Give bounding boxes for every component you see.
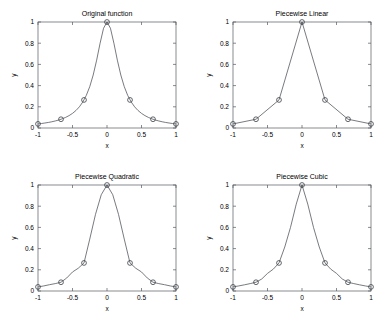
plot-title: Piecewise Linear <box>276 10 330 17</box>
x-axis-label: x <box>300 142 304 149</box>
x-tick-label: 0.5 <box>137 294 146 301</box>
y-axis-label: y <box>10 73 18 77</box>
subplot-piecewise-quadratic: Piecewise Quadratic-1-0.500.5100.20.40.6… <box>0 163 195 326</box>
y-axis-label: y <box>205 73 213 77</box>
x-tick-label: -0.5 <box>262 294 274 301</box>
y-tick-label: 0.4 <box>25 82 34 89</box>
figure-canvas: Original function-1-0.500.5100.20.40.60.… <box>0 0 390 326</box>
axis-box <box>233 185 371 291</box>
y-tick-label: 0 <box>30 287 34 294</box>
x-tick-label: 0 <box>105 294 109 301</box>
x-tick-label: -1 <box>230 131 236 138</box>
y-tick-label: 1 <box>30 18 34 25</box>
x-tick-label: 0.5 <box>332 131 341 138</box>
plot-area: Piecewise Cubic-1-0.500.5100.20.40.60.81… <box>195 163 390 326</box>
x-axis-label: x <box>105 305 109 312</box>
y-tick-label: 0.4 <box>25 245 34 252</box>
x-tick-label: 0.5 <box>137 131 146 138</box>
y-tick-label: 0.6 <box>25 61 34 68</box>
plot-title: Piecewise Cubic <box>276 173 328 180</box>
plot-title: Piecewise Quadratic <box>75 173 139 181</box>
axis-box <box>38 22 176 128</box>
axis-box <box>38 185 176 291</box>
y-tick-label: 1 <box>225 18 229 25</box>
data-curve <box>233 185 371 287</box>
subplot-piecewise-linear: Piecewise Linear-1-0.500.5100.20.40.60.8… <box>195 0 390 163</box>
y-tick-label: 0.6 <box>25 224 34 231</box>
x-tick-label: 0 <box>300 294 304 301</box>
x-tick-label: 1 <box>369 294 373 301</box>
x-tick-label: 1 <box>174 294 178 301</box>
data-curve <box>233 22 371 124</box>
y-tick-label: 0.2 <box>220 103 229 110</box>
x-tick-label: 1 <box>369 131 373 138</box>
y-tick-label: 0.2 <box>220 266 229 273</box>
y-tick-label: 0.8 <box>25 203 34 210</box>
y-tick-label: 1 <box>225 181 229 188</box>
data-curve <box>38 185 176 287</box>
x-axis-label: x <box>300 305 304 312</box>
subplot-piecewise-cubic: Piecewise Cubic-1-0.500.5100.20.40.60.81… <box>195 163 390 326</box>
y-axis-label: y <box>10 236 18 240</box>
y-tick-label: 0.6 <box>220 224 229 231</box>
y-tick-label: 0.2 <box>25 266 34 273</box>
x-tick-label: -0.5 <box>67 131 79 138</box>
x-tick-label: 1 <box>174 131 178 138</box>
x-tick-label: -0.5 <box>67 294 79 301</box>
x-tick-label: 0.5 <box>332 294 341 301</box>
x-tick-label: -1 <box>35 294 41 301</box>
y-tick-label: 0.4 <box>220 245 229 252</box>
plot-area: Piecewise Linear-1-0.500.5100.20.40.60.8… <box>195 0 390 163</box>
y-tick-label: 0 <box>30 124 34 131</box>
plot-area: Original function-1-0.500.5100.20.40.60.… <box>0 0 195 163</box>
x-tick-label: -0.5 <box>262 131 274 138</box>
plot-title: Original function <box>82 10 133 18</box>
y-axis-label: y <box>205 236 213 240</box>
x-tick-label: -1 <box>35 131 41 138</box>
subplot-original-function: Original function-1-0.500.5100.20.40.60.… <box>0 0 195 163</box>
y-tick-label: 0 <box>225 124 229 131</box>
y-tick-label: 0.2 <box>25 103 34 110</box>
x-tick-label: -1 <box>230 294 236 301</box>
plot-area: Piecewise Quadratic-1-0.500.5100.20.40.6… <box>0 163 195 326</box>
y-tick-label: 0 <box>225 287 229 294</box>
y-tick-label: 0.8 <box>220 203 229 210</box>
y-tick-label: 0.8 <box>220 40 229 47</box>
x-tick-label: 0 <box>105 131 109 138</box>
x-tick-label: 0 <box>300 131 304 138</box>
data-curve <box>38 22 176 124</box>
y-tick-label: 0.4 <box>220 82 229 89</box>
x-axis-label: x <box>105 142 109 149</box>
y-tick-label: 0.6 <box>220 61 229 68</box>
y-tick-label: 0.8 <box>25 40 34 47</box>
y-tick-label: 1 <box>30 181 34 188</box>
axis-box <box>233 22 371 128</box>
